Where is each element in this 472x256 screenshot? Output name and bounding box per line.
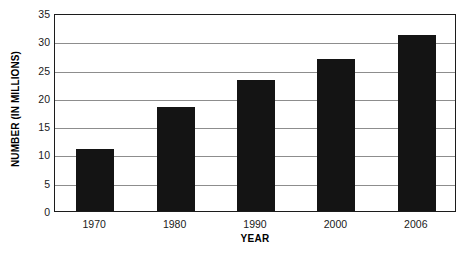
- bars-group: [55, 15, 455, 211]
- x-axis-tick-labels: 19701980199020002006: [54, 218, 456, 234]
- y-axis-title: NUMBER (IN MILLIONS): [4, 3, 26, 215]
- y-tick-label: 0: [24, 206, 50, 218]
- y-tick-label: 35: [24, 8, 50, 20]
- y-tick-label: 15: [24, 121, 50, 133]
- x-tick-label: 2000: [300, 218, 370, 230]
- plot-area: [54, 14, 456, 212]
- bar: [237, 80, 275, 211]
- x-axis-title: YEAR: [54, 233, 456, 244]
- x-tick-label: 2006: [381, 218, 451, 230]
- y-tick-label: 10: [24, 149, 50, 161]
- bar: [157, 107, 195, 211]
- bar-chart-figure: NUMBER (IN MILLIONS) 35302520151050 1970…: [0, 0, 472, 256]
- y-tick-label: 30: [24, 36, 50, 48]
- x-tick-label: 1980: [140, 218, 210, 230]
- y-tick-label: 20: [24, 93, 50, 105]
- x-tick-label: 1990: [220, 218, 290, 230]
- bar: [317, 59, 355, 211]
- y-axis-tick-labels: 35302520151050: [24, 8, 50, 218]
- y-tick-label: 25: [24, 65, 50, 77]
- bar: [76, 149, 114, 211]
- y-tick-label: 5: [24, 178, 50, 190]
- x-tick-label: 1970: [59, 218, 129, 230]
- bar: [398, 35, 436, 212]
